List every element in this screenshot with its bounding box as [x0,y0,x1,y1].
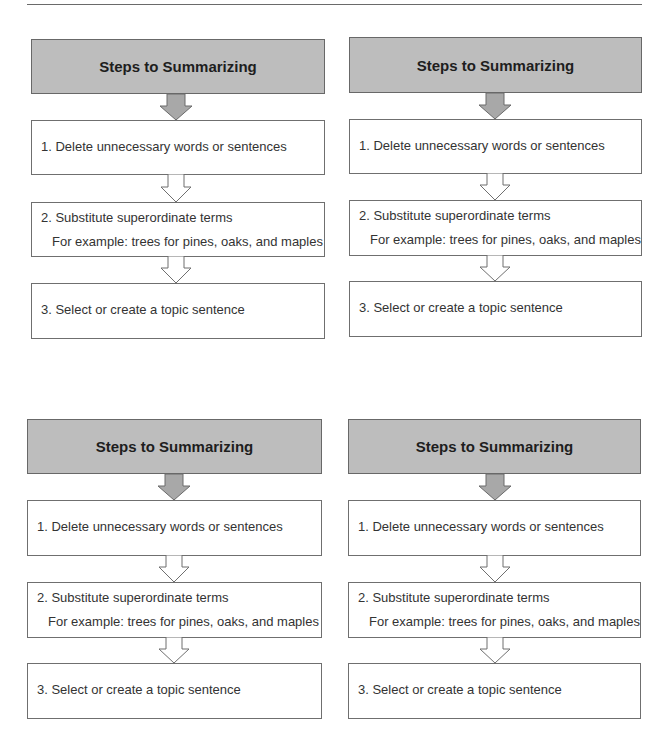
flowchart-title-box: Steps to Summarizing [349,37,642,93]
step-2-label: 2. Substitute superordinate terms [359,208,551,223]
outline-down-arrow-icon [478,637,512,664]
step-2-example: For example: trees for pines, oaks, and … [370,232,641,247]
step-box-3: 3. Select or create a topic sentence [27,663,322,719]
step-1-label: 1. Delete unnecessary words or sentences [37,519,283,534]
step-box-1: 1. Delete unnecessary words or sentences [349,119,642,174]
outline-down-arrow-icon [157,637,191,664]
flowchart-title-box: Steps to Summarizing [27,419,322,474]
outline-down-arrow-icon [157,555,191,583]
flowchart-title: Steps to Summarizing [96,438,254,455]
outline-down-arrow-icon [478,255,512,282]
step-2-example: For example: trees for pines, oaks, and … [369,614,640,629]
step-2-label: 2. Substitute superordinate terms [358,590,550,605]
step-3-label: 3. Select or create a topic sentence [41,302,245,317]
flowchart-title-box: Steps to Summarizing [348,419,641,474]
step-3-label: 3. Select or create a topic sentence [359,300,563,315]
outline-down-arrow-icon [478,173,512,201]
step-2-example: For example: trees for pines, oaks, and … [48,614,319,629]
step-1-label: 1. Delete unnecessary words or sentences [358,519,604,534]
step-box-3: 3. Select or create a topic sentence [349,281,642,337]
step-box-2: 2. Substitute superordinate terms For ex… [348,582,641,638]
step-box-1: 1. Delete unnecessary words or sentences [31,120,325,175]
step-2-label: 2. Substitute superordinate terms [41,210,233,225]
flowchart-title: Steps to Summarizing [99,58,257,75]
step-box-3: 3. Select or create a topic sentence [348,663,641,719]
flowchart-bottom-left: Steps to Summarizing 1. Delete unnecessa… [27,419,322,719]
step-box-2: 2. Substitute superordinate terms For ex… [349,200,642,256]
step-1-label: 1. Delete unnecessary words or sentences [359,138,605,153]
flowchart-title: Steps to Summarizing [416,438,574,455]
flowchart-title: Steps to Summarizing [417,57,575,74]
step-box-3: 3. Select or create a topic sentence [31,283,325,339]
step-box-1: 1. Delete unnecessary words or sentences [27,500,322,556]
step-box-2: 2. Substitute superordinate terms For ex… [31,202,325,257]
solid-down-arrow-icon [478,93,512,120]
step-box-2: 2. Substitute superordinate terms For ex… [27,582,322,638]
flowchart-title-box: Steps to Summarizing [31,39,325,94]
solid-down-arrow-icon [159,94,193,121]
step-1-label: 1. Delete unnecessary words or sentences [41,139,287,154]
flowchart-bottom-right: Steps to Summarizing 1. Delete unnecessa… [348,419,641,719]
step-3-label: 3. Select or create a topic sentence [37,682,241,697]
outline-down-arrow-icon [159,256,193,284]
step-box-1: 1. Delete unnecessary words or sentences [348,500,641,556]
flowchart-top-right: Steps to Summarizing 1. Delete unnecessa… [349,37,642,337]
outline-down-arrow-icon [159,174,193,203]
step-2-example: For example: trees for pines, oaks, and … [52,234,323,249]
step-2-label: 2. Substitute superordinate terms [37,590,229,605]
step-3-label: 3. Select or create a topic sentence [358,682,562,697]
solid-down-arrow-icon [157,474,191,501]
flowchart-top-left: Steps to Summarizing 1. Delete unnecessa… [31,39,325,339]
solid-down-arrow-icon [478,474,512,501]
top-divider-rule [27,4,642,5]
outline-down-arrow-icon [478,555,512,583]
